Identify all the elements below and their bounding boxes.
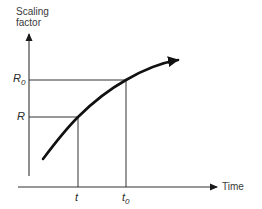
label-t-symbol: t <box>75 191 78 203</box>
growth-curve <box>43 60 178 159</box>
label-r: R <box>17 111 25 122</box>
y-axis-title-line2: factor <box>16 17 49 28</box>
label-r0-subscript: 0 <box>21 78 25 87</box>
label-t: t <box>75 192 78 203</box>
scaling-factor-diagram <box>0 0 262 209</box>
label-t0-subscript: 0 <box>125 197 129 206</box>
label-r0-symbol: R <box>13 72 21 84</box>
y-axis-title: Scaling factor <box>16 6 49 28</box>
x-axis-title: Time <box>222 181 244 192</box>
label-r-symbol: R <box>17 110 25 122</box>
label-r0: R0 <box>13 73 25 85</box>
guide-lines-r-t <box>29 117 79 187</box>
y-axis-title-line1: Scaling <box>16 6 49 17</box>
label-t0: t0 <box>122 192 130 204</box>
